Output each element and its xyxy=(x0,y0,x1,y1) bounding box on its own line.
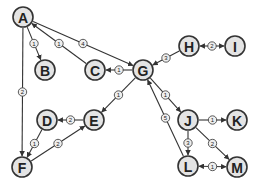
edge-a-b: 1 xyxy=(27,27,41,60)
edge-weight-badge: 2 xyxy=(66,116,74,124)
node-label: E xyxy=(89,113,98,129)
graph-diagram: 11413221212151321 ABCGHIDEFJKLM xyxy=(0,0,259,188)
edge-j-l: 3 xyxy=(184,131,192,155)
edge-weight-badge: 2 xyxy=(208,42,216,50)
node-label: C xyxy=(90,63,100,79)
edge-a-g: 4 xyxy=(33,21,133,65)
edge-weight-badge: 1 xyxy=(208,162,216,170)
edge-f-e: 2 xyxy=(31,126,85,161)
edge-d-f: 1 xyxy=(27,130,42,158)
node-label: J xyxy=(184,113,192,129)
edge-weight-badge: 4 xyxy=(79,39,87,47)
edge-g-c: 1 xyxy=(106,66,132,74)
edge-a-f: 2 xyxy=(18,28,26,156)
node-label: M xyxy=(231,160,243,176)
node-label: A xyxy=(18,10,28,26)
node-label: K xyxy=(232,113,242,129)
edge-weight-badge: 1 xyxy=(55,39,63,47)
node-b: B xyxy=(35,60,55,80)
edge-weight-badge: 1 xyxy=(30,39,38,47)
edge-weight-badge: 3 xyxy=(162,54,170,62)
node-k: K xyxy=(227,110,247,130)
edge-e-d: 2 xyxy=(58,116,83,124)
node-l: L xyxy=(178,156,198,176)
node-e: E xyxy=(84,110,104,130)
edge-weight-badge: 3 xyxy=(184,139,192,147)
node-m: M xyxy=(227,157,247,177)
edge-weight-badge: 1 xyxy=(208,116,216,124)
node-label: L xyxy=(184,159,193,175)
edge-weight-badge: 2 xyxy=(208,139,216,147)
node-label: H xyxy=(184,39,194,55)
edge-h-i: 2 xyxy=(200,42,224,50)
node-j: J xyxy=(178,110,198,130)
edge-weight-badge: 2 xyxy=(18,88,26,96)
edge-g-e: 1 xyxy=(102,78,136,112)
node-h: H xyxy=(179,36,199,56)
node-i: I xyxy=(225,36,245,56)
edge-weight-badge: 2 xyxy=(54,139,62,147)
edge-j-k: 1 xyxy=(199,116,226,124)
edge-l-m: 1 xyxy=(199,162,226,170)
node-label: G xyxy=(138,63,149,79)
edge-weight-badge: 1 xyxy=(161,91,169,99)
node-a: A xyxy=(13,7,33,27)
edge-weight-badge: 5 xyxy=(161,114,169,122)
edge-weight-badge: 1 xyxy=(115,66,123,74)
node-g: G xyxy=(133,60,153,80)
node-f: F xyxy=(12,157,32,177)
node-label: B xyxy=(40,63,50,79)
node-d: D xyxy=(37,110,57,130)
edge-h-g: 3 xyxy=(153,51,179,65)
edge-weight-badge: 1 xyxy=(30,139,38,147)
node-c: C xyxy=(85,60,105,80)
node-label: D xyxy=(42,113,52,129)
edge-j-m: 2 xyxy=(196,128,229,160)
edge-weight-badge: 1 xyxy=(114,91,122,99)
node-label: I xyxy=(233,39,237,55)
nodes-layer: ABCGHIDEFJKLM xyxy=(12,7,247,177)
node-label: F xyxy=(18,160,27,176)
